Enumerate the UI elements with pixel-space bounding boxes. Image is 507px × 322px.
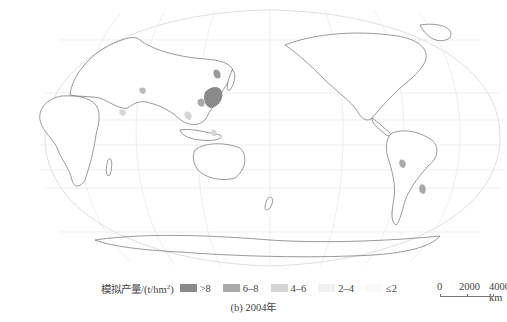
africa (40, 96, 99, 186)
north-america (285, 33, 426, 120)
legend-item-gt8: >8 (180, 283, 211, 294)
legend-item-2-4: 2–4 (318, 283, 354, 294)
legend: 模拟产量/(t/hm2) >8 6–8 4–6 2–4 ≤2 (101, 281, 409, 295)
legend-item-le2: ≤2 (366, 283, 397, 294)
legend-swatch (318, 284, 335, 292)
country-boundaries (40, 24, 451, 257)
legend-swatch (223, 284, 240, 292)
antarctica (95, 235, 440, 256)
scale-tick (467, 294, 468, 297)
legend-title: 模拟产量/(t/hm2) (101, 281, 174, 296)
australia (193, 144, 245, 180)
world-map (0, 0, 507, 272)
south-america (386, 131, 437, 225)
legend-item-4-6: 4–6 (271, 283, 307, 294)
legend-swatch (271, 284, 288, 292)
scale-bar: 0 2000 4000 km (437, 281, 507, 297)
legend-item-6-8: 6–8 (223, 283, 259, 294)
legend-swatch (180, 284, 197, 292)
legend-swatch (366, 284, 383, 292)
figure-caption: (b) 2004年 (0, 299, 507, 314)
